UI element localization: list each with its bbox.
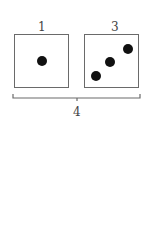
- total-label: 4: [73, 106, 81, 118]
